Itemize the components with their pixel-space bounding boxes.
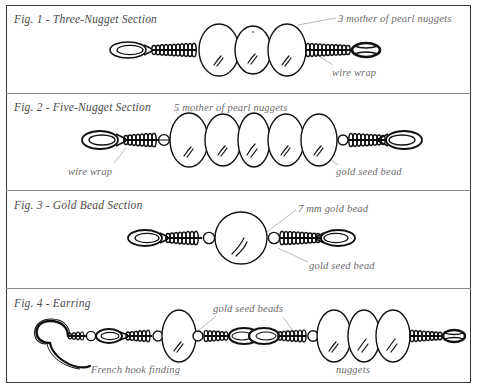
leader-line-nuggets [298,18,336,25]
wire-wrap-1 [126,330,152,342]
figure-2-panel: Fig. 2 - Five-Nugget Section 5 mother of… [6,93,471,190]
wire-wrap-left [124,133,158,147]
figure-2-drawing [6,93,471,190]
gold-seed-bead-left [158,135,170,146]
wire-loop-right [316,230,355,246]
nugget-2 [317,310,351,362]
nugget-3 [238,113,270,167]
wire-loop-right [443,330,465,342]
wire-wrap-right [280,231,324,245]
nugget-1 [162,310,196,362]
figure-3-drawing [6,190,471,288]
wire-wrap-left [166,231,202,245]
nugget-2 [205,114,241,166]
wire-loop-right [352,43,380,57]
figure-1-drawing [6,5,471,93]
nugget-1 [170,113,208,167]
wire-loop-left [110,42,152,58]
gold-seed-bead-right [268,232,279,243]
wire-wrap-4 [410,330,442,342]
nugget-5 [301,114,337,166]
nugget-1 [199,24,239,76]
diagram-sheet: Fig. 1 - Three-Nugget Section 3 mother o… [0,0,484,389]
nugget-4 [376,310,410,362]
figure-4-panel: Fig. 4 - Earring gold seed beads French … [6,288,471,383]
wire-loop-left [128,230,168,246]
gold-seed-bead-right [338,135,348,145]
gold-seed-bead-1 [86,331,95,340]
figure-4-drawing [6,288,471,383]
leader-line-wire-wrap [114,148,126,163]
wire-wrap-right [348,133,388,146]
wire-loop-link-center [229,328,279,344]
leader-line-seed-bead [278,248,308,262]
nugget-3 [348,310,380,362]
french-hook-icon [35,319,90,369]
wire-wrap-3 [278,330,306,342]
wire-wrap-left [152,43,196,57]
wire-wrap-right [306,43,352,56]
wire-wrap-hook [68,332,86,340]
figure-3-panel: Fig. 3 - Gold Bead Section 7 mm gold bea… [6,190,471,288]
nugget-3 [268,24,306,76]
gold-seed-bead-3 [193,331,203,341]
nugget-4 [268,114,304,166]
gold-bead-7mm [215,212,267,264]
gold-seed-bead-left [203,232,214,243]
wire-loop-left [82,131,126,149]
nugget-2 [235,26,271,74]
leader-line-gold-bead [264,210,296,234]
wire-wrap-2 [204,330,230,341]
figure-1-panel: Fig. 1 - Three-Nugget Section 3 mother o… [6,5,471,93]
wire-loop-link-1 [96,329,128,343]
